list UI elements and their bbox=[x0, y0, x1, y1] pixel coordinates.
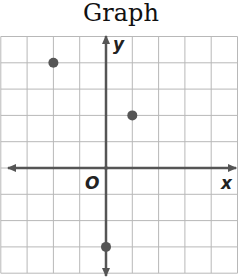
data-point bbox=[127, 110, 137, 120]
data-point bbox=[101, 242, 111, 252]
y-axis-label: y bbox=[113, 34, 125, 54]
data-points bbox=[48, 58, 137, 252]
x-axis-label: x bbox=[220, 173, 233, 193]
origin-label: O bbox=[85, 173, 99, 193]
data-point bbox=[48, 58, 58, 68]
grid-lines bbox=[1, 37, 238, 274]
coordinate-plane: y x O bbox=[0, 0, 242, 278]
